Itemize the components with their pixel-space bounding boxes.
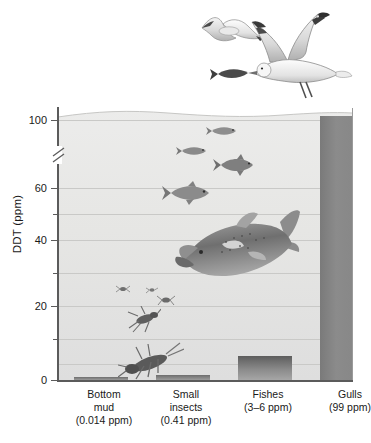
aquatic-insect-icon: [125, 306, 161, 334]
x-category-line3: (0.41 ppm): [134, 414, 238, 427]
bar-fishes[interactable]: [238, 356, 292, 380]
gull-small-icon: [202, 18, 265, 41]
y-tick-0: [51, 380, 58, 381]
biomagnification-figure: 100 60 40 20 0 DDT (ppm) Bottom mud (0.0…: [0, 0, 371, 443]
y-tick-label-0: 0: [17, 375, 47, 385]
y-tick-30: [53, 273, 58, 274]
aquatic-insect-icon: [116, 282, 130, 296]
gridline-10: [58, 339, 352, 340]
y-tick-60: [51, 188, 58, 189]
fish-icon: [213, 154, 259, 176]
y-tick-100: [51, 120, 58, 121]
y-tick-label-100: 100: [17, 115, 47, 125]
gridline-100: [58, 120, 352, 121]
gulls-illustration: [196, 2, 356, 106]
y-axis-title: DDT (ppm): [11, 178, 23, 270]
x-category-line2: (99 ppm): [298, 401, 371, 414]
x-category-line1: Gulls: [298, 388, 371, 401]
y-tick-50: [53, 214, 58, 215]
y-tick-40: [51, 240, 58, 241]
x-category-gulls: Gulls (99 ppm): [298, 388, 371, 414]
y-tick-20: [51, 306, 58, 307]
plot-area: [58, 108, 353, 380]
x-axis-line: [57, 380, 353, 382]
y-tick-10: [53, 339, 58, 340]
axis-break-icon: [50, 146, 67, 164]
gridline-20: [58, 306, 352, 307]
y-tick-label-20: 20: [17, 301, 47, 311]
gridline-5: [58, 364, 352, 365]
fish-icon: [206, 124, 242, 138]
fish-icon: [170, 202, 300, 288]
bar-gulls[interactable]: [320, 116, 353, 380]
fish-icon: [176, 144, 212, 158]
